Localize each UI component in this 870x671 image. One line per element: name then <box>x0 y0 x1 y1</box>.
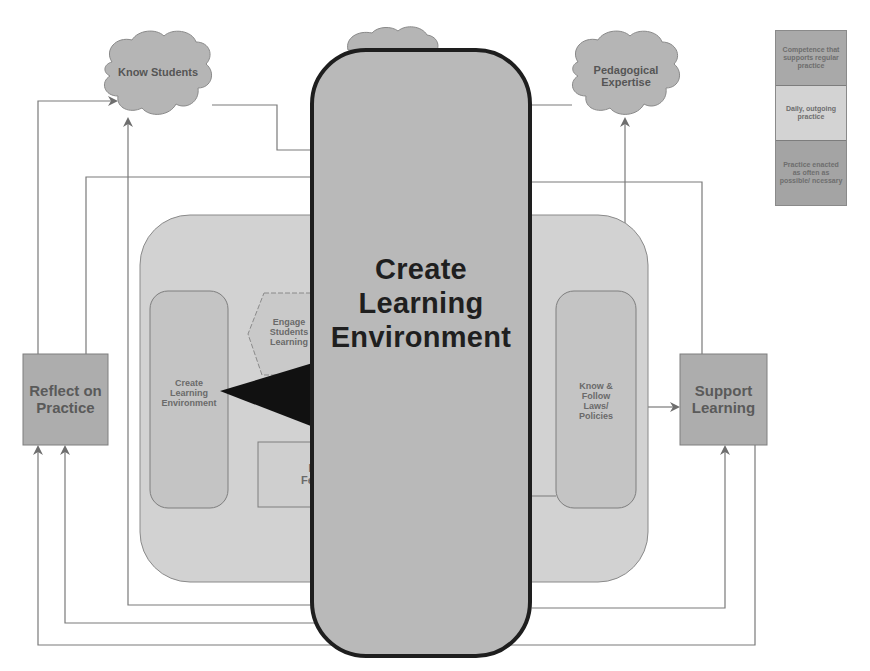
legend-item-competence: Competence that supports regular practic… <box>776 31 846 86</box>
overlay-title: Create Learning Environment <box>331 252 512 355</box>
label-engage-line3: Learning <box>270 338 308 348</box>
label-support-line2: Learning <box>692 400 755 417</box>
legend-item-as-often-as-possible: Practice enacted as often as possible/ n… <box>776 141 846 205</box>
overlay-line2: Learning <box>331 286 512 320</box>
connector-know-students-to-center <box>212 105 312 150</box>
overlay-create-learning-environment[interactable]: Create Learning Environment <box>310 48 532 658</box>
overlay-line1: Create <box>331 252 512 286</box>
cloud-label-pedagogical-line2: Expertise <box>601 76 651 88</box>
cloud-label-pedagogical-expertise: Pedagogical Expertise <box>572 58 680 94</box>
cloud-label-pedagogical-line1: Pedagogical <box>594 64 659 76</box>
label-support-learning: Support Learning <box>680 354 767 445</box>
connector-reflect-to-know-students <box>38 101 116 354</box>
cloud-middle-hidden <box>348 27 438 50</box>
label-reflect-line1: Reflect on <box>29 383 102 400</box>
legend: Competence that supports regular practic… <box>775 30 847 206</box>
label-create-learning-environment: Create Learning Environment <box>150 370 228 418</box>
legend-item-daily-practice: Daily, outgoing practice <box>776 86 846 141</box>
label-reflect-line2: Practice <box>36 400 94 417</box>
label-create-line3: Environment <box>161 399 216 409</box>
overlay-line3: Environment <box>331 320 512 354</box>
label-support-line1: Support <box>695 383 753 400</box>
label-reflect-on-practice: Reflect on Practice <box>23 354 108 445</box>
cloud-label-know-students: Know Students <box>104 60 212 84</box>
label-laws-line4: Policies <box>579 412 613 422</box>
label-know-follow-laws: Know & Follow Laws/ Policies <box>556 372 636 432</box>
